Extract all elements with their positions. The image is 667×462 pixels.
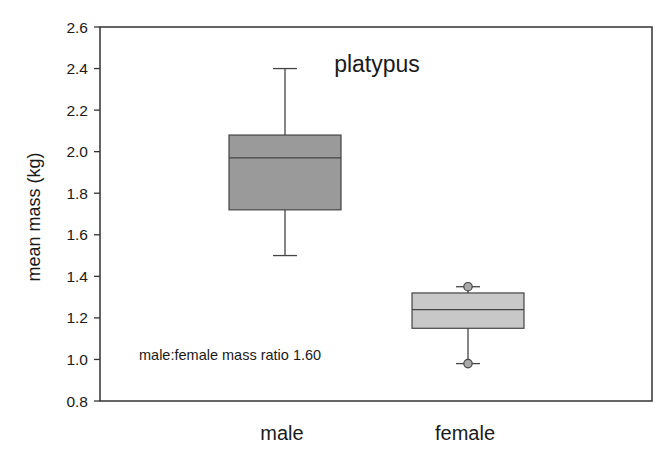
plot-area-border — [100, 27, 652, 401]
plot-frame — [100, 27, 652, 401]
platypus-mass-boxplot: 0.81.01.21.41.61.82.02.22.42.6 platypus … — [0, 0, 667, 462]
y-tick-label: 1.0 — [66, 351, 88, 368]
y-tick-label: 2.6 — [66, 19, 88, 36]
x-category-label-male: male — [260, 422, 303, 444]
outlier-point — [464, 283, 472, 291]
chart-title: platypus — [334, 51, 420, 77]
y-tick-label: 2.0 — [66, 143, 88, 160]
y-tick-label: 1.4 — [66, 268, 88, 285]
y-axis: 0.81.01.21.41.61.82.02.22.42.6 — [66, 19, 100, 410]
y-tick-label: 0.8 — [66, 393, 88, 410]
y-tick-label: 1.8 — [66, 185, 88, 202]
outlier-point — [464, 359, 472, 367]
y-tick-label: 2.2 — [66, 102, 88, 119]
ratio-annotation: male:female mass ratio 1.60 — [139, 347, 321, 363]
box-male — [229, 69, 341, 256]
y-axis-label: mean mass (kg) — [24, 152, 44, 281]
y-tick-label: 1.6 — [66, 226, 88, 243]
y-tick-label: 2.4 — [66, 60, 88, 77]
x-axis-category-labels: malefemale — [260, 422, 495, 444]
iqr-box — [412, 293, 524, 328]
x-category-label-female: female — [435, 422, 495, 444]
box-series — [229, 69, 524, 368]
iqr-box — [229, 135, 341, 210]
y-tick-label: 1.2 — [66, 309, 88, 326]
box-female — [412, 283, 524, 368]
